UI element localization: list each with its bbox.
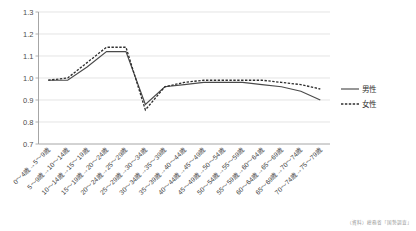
y-axis (36, 12, 39, 144)
y-tick-label: 1.3 (23, 8, 33, 17)
y-tick-label: 0.8 (23, 118, 33, 127)
y-tick-label: 0.9 (23, 96, 33, 105)
y-tick-label: 1.1 (23, 52, 33, 61)
series-line-female (48, 47, 320, 110)
x-category-labels: 0～4歳→5～9歳5～9歳→10～14歳10～14歳→15～19歳15～19歳→… (11, 145, 324, 196)
line-chart: 0.70.80.91.01.11.21.3 0～4歳→5～9歳5～9歳→10～1… (0, 0, 416, 231)
data-series (48, 47, 320, 110)
y-tick-label: 1.2 (23, 30, 33, 39)
legend-label: 女性 (362, 99, 377, 109)
y-tick-label: 1.0 (23, 74, 33, 83)
legend-label: 男性 (362, 84, 377, 94)
chart-container: 0.70.80.91.01.11.21.3 0～4歳→5～9歳5～9歳→10～1… (0, 0, 416, 231)
chart-legend: 男性女性 (341, 84, 377, 109)
y-tick-label: 0.7 (23, 140, 33, 149)
y-tick-labels: 0.70.80.91.01.11.21.3 (23, 8, 33, 149)
gridlines (39, 12, 331, 122)
source-note: （資料）総務省「国勢調査」 (347, 219, 412, 226)
source-text: （資料）総務省「国勢調査」 (347, 219, 412, 226)
